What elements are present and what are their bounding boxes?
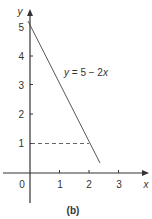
x-tick-label-2: 2 — [86, 179, 92, 190]
y-tick-label-1: 1 — [18, 138, 24, 149]
y-axis-arrow-icon — [27, 9, 33, 16]
figure-caption: (b) — [67, 205, 80, 216]
y-axis-label: y — [17, 6, 24, 17]
y-tick-label-5: 5 — [18, 22, 24, 33]
x-tick-label-3: 3 — [116, 179, 122, 190]
line-series — [28, 21, 100, 163]
x-tick-label-1: 1 — [57, 179, 63, 190]
x-tick-label-0: 0 — [19, 179, 25, 190]
y-tick-label-4: 4 — [18, 51, 24, 62]
equation-label: y = 5 − 2x — [63, 67, 109, 78]
chart: 0 1 2 3 x 1 2 3 4 5 y y = 5 − 2x (b) — [0, 0, 152, 219]
x-axis-label: x — [143, 179, 150, 190]
y-tick-label-2: 2 — [18, 109, 24, 120]
y-tick-label-3: 3 — [18, 80, 24, 91]
x-axis-arrow-icon — [142, 170, 149, 176]
